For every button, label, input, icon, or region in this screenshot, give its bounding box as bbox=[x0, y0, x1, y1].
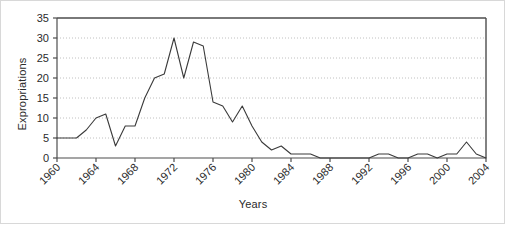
y-tick-label: 20 bbox=[37, 72, 49, 84]
x-tick-label: 2000 bbox=[427, 161, 453, 187]
x-tick-label: 1968 bbox=[115, 161, 141, 187]
x-axis-title: Years bbox=[0, 198, 506, 210]
y-axis-title: Expropriations bbox=[16, 24, 28, 164]
y-tick-label: 30 bbox=[37, 32, 49, 44]
y-tick-label: 35 bbox=[37, 12, 49, 24]
x-tick-label: 1980 bbox=[232, 161, 258, 187]
x-tick-label: 1984 bbox=[271, 161, 297, 187]
y-tick-label: 5 bbox=[43, 132, 49, 144]
line-chart: 0510152025303519601964196819721976198019… bbox=[0, 0, 506, 225]
y-tick-label: 0 bbox=[43, 152, 49, 164]
figure-container: 0510152025303519601964196819721976198019… bbox=[0, 0, 506, 225]
x-tick-label: 1972 bbox=[154, 161, 180, 187]
y-tick-label: 15 bbox=[37, 92, 49, 104]
x-tick-label: 1992 bbox=[349, 161, 375, 187]
x-tick-label: 2004 bbox=[466, 161, 492, 187]
y-tick-label: 10 bbox=[37, 112, 49, 124]
x-tick-label: 1976 bbox=[193, 161, 219, 187]
x-tick-label: 1996 bbox=[388, 161, 414, 187]
data-series-expropriations bbox=[57, 38, 486, 158]
x-tick-label: 1964 bbox=[76, 161, 102, 187]
x-tick-label: 1960 bbox=[37, 161, 63, 187]
x-tick-label: 1988 bbox=[310, 161, 336, 187]
y-tick-label: 25 bbox=[37, 52, 49, 64]
